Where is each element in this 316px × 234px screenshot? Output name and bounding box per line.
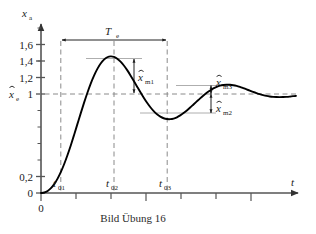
period-symbol: T [105, 25, 112, 37]
step-response-chart: 1,6 1,4 1,2 1 0,2 0 x e x a 0 [0, 0, 316, 234]
y-tick-label-0-2: 0,2 [19, 171, 33, 183]
y-tick-label-1: 1 [28, 88, 34, 100]
y-tick-label-1-6: 1,6 [19, 39, 33, 51]
svg-text:02: 02 [111, 184, 119, 192]
y-tick-label-1-4: 1,4 [19, 55, 33, 67]
period-subscript: e [116, 32, 119, 40]
steady-state-subscript: e [16, 95, 19, 103]
chart-background [0, 0, 316, 234]
svg-text:01: 01 [58, 184, 66, 192]
figure-container: 1,6 1,4 1,2 1 0,2 0 x e x a 0 [0, 0, 316, 234]
overshoot2-symbol: x [215, 102, 221, 114]
x-origin-label: 0 [38, 202, 44, 214]
y-tick-label-0: 0 [28, 187, 34, 199]
y-axis-title-symbol: x [21, 7, 27, 19]
overshoot3-subscript: m3 [223, 83, 232, 91]
overshoot2-subscript: m2 [223, 109, 232, 117]
overshoot1-subscript: m1 [145, 78, 154, 86]
figure-caption: Bild Übung 16 [100, 212, 166, 224]
svg-text:03: 03 [164, 184, 172, 192]
y-tick-label-1-2: 1,2 [19, 72, 33, 84]
overshoot1-symbol: x [137, 71, 143, 83]
steady-state-symbol: x [8, 88, 14, 100]
